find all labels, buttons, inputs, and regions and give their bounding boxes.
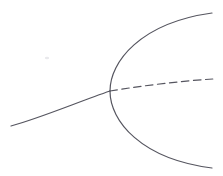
scan-speck-artifact xyxy=(45,57,49,60)
figure-background xyxy=(0,0,223,176)
bifurcation-figure xyxy=(0,0,223,176)
bifurcation-canvas xyxy=(0,0,223,176)
